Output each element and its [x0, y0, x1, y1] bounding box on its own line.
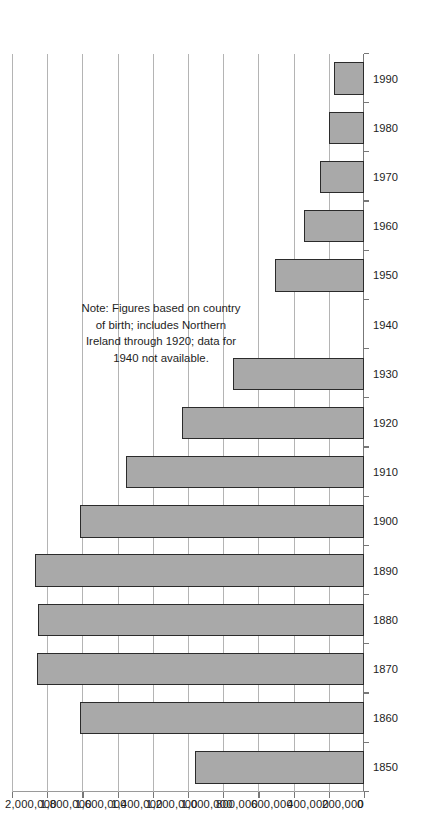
- category-axis-tick: [364, 151, 369, 152]
- category-axis-tick: [364, 791, 369, 792]
- category-axis-tick: [364, 446, 369, 447]
- bar: [38, 604, 364, 636]
- category-axis-tick: [364, 692, 369, 693]
- plot-area: [12, 54, 364, 792]
- category-axis-tick: [364, 496, 369, 497]
- bar: [329, 112, 364, 144]
- category-axis-tick: [364, 742, 369, 743]
- category-axis-tick: [364, 102, 369, 103]
- bar: [275, 259, 364, 291]
- chart-note: Note: Figures based on country of birth;…: [36, 300, 286, 366]
- bar: [320, 161, 364, 193]
- bar: [195, 751, 364, 783]
- category-axis-tick: [364, 348, 369, 349]
- category-axis-tick: [364, 299, 369, 300]
- gridline: [12, 54, 13, 792]
- category-axis-tick: [364, 200, 369, 201]
- bar: [80, 702, 364, 734]
- bar: [37, 653, 364, 685]
- bar: [35, 554, 364, 586]
- category-axis-tick: [364, 53, 369, 54]
- bar: [304, 210, 364, 242]
- chart-figure: 0200,000400,000600,000800,0001,000,0001,…: [0, 0, 422, 834]
- bar: [182, 407, 365, 439]
- category-axis-tick: [364, 250, 369, 251]
- category-axis-tick: [364, 594, 369, 595]
- chart-rotated-canvas: 0200,000400,000600,000800,0001,000,0001,…: [0, 0, 422, 834]
- bar: [126, 456, 364, 488]
- value-axis-tick: [364, 792, 365, 798]
- category-axis-tick: [364, 397, 369, 398]
- category-axis-tick: [364, 545, 369, 546]
- category-axis-tick: [364, 643, 369, 644]
- bar: [334, 62, 364, 94]
- bar: [80, 505, 364, 537]
